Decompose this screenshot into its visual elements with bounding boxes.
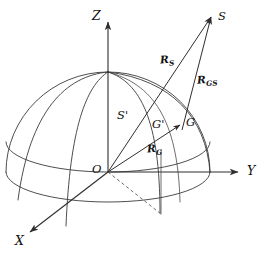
point-label-satellite: S	[218, 11, 226, 23]
vector-label-r-s: RS	[160, 54, 175, 65]
vector-label-r-s-base: R	[160, 53, 170, 66]
vector-label-r-gs: RGS	[197, 73, 218, 85]
vector-label-r-gs-base: R	[197, 73, 207, 86]
point-label-ground-station: G	[186, 117, 195, 129]
vector-label-r-g-sub: G	[156, 147, 163, 156]
vector-label-r-g: RG	[147, 142, 163, 154]
point-label-ground-projected: G'	[152, 119, 164, 131]
figure-canvas: Z Y X O S S' G' G RS RGS RG	[0, 0, 266, 270]
axis-label-y: Y	[247, 165, 255, 178]
point-label-origin: O	[92, 164, 101, 176]
axis-label-x: X	[15, 235, 24, 248]
meridian-left-outer	[18, 72, 108, 200]
axis-label-z: Z	[92, 10, 101, 23]
vector-r-g	[108, 125, 180, 172]
geometry-drawing	[0, 0, 266, 270]
point-label-subsatellite: S'	[117, 110, 128, 122]
meridian-left-inner	[66, 72, 108, 226]
vector-label-r-g-base: R	[147, 142, 157, 155]
vector-label-r-gs-sub: GS	[206, 78, 218, 88]
projection-dashed-line	[108, 172, 161, 214]
vector-label-r-s-sub: S	[169, 58, 175, 67]
